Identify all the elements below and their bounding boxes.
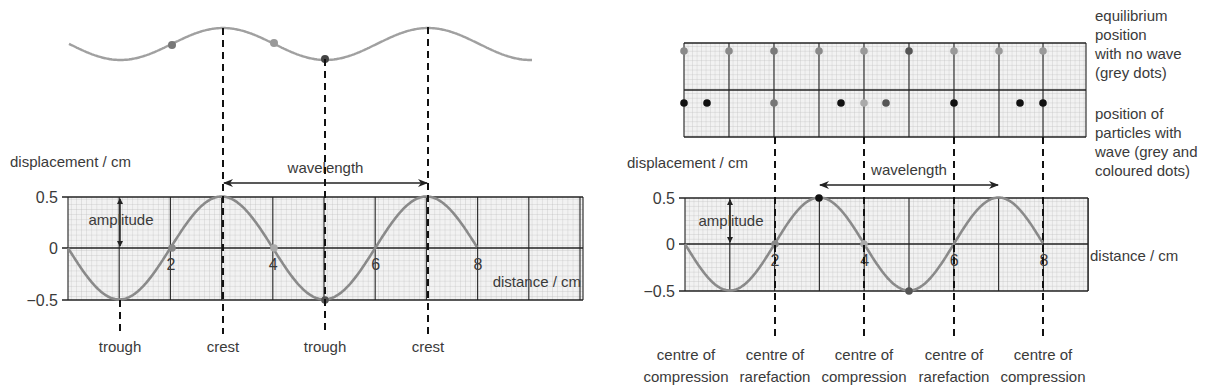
- centre-label-line2: rarefaction: [740, 368, 811, 385]
- y-tick-label: 0: [49, 240, 58, 257]
- displaced-particle-dot: [770, 99, 778, 107]
- wavelength-label: wavelength: [870, 161, 947, 178]
- x-tick-label: 4: [269, 256, 278, 273]
- marker-label-crest: crest: [207, 338, 240, 355]
- equilibrium-dot: [815, 47, 823, 55]
- note-line: (grey dots): [1095, 63, 1182, 82]
- note-line: with no wave: [1095, 44, 1182, 63]
- equilibrium-dot: [770, 47, 778, 55]
- note-line: equilibrium: [1095, 6, 1182, 25]
- centre-label-line1: centre of: [746, 346, 805, 363]
- y-axis-label: displacement / cm: [627, 154, 748, 171]
- longitudinal-wave-panel: 0.50−0.52468amplitudedisplacement / cmwa…: [627, 43, 1178, 385]
- string-particle-dot: [168, 41, 176, 49]
- x-axis-label: distance / cm: [493, 273, 581, 290]
- string-wave: [69, 28, 532, 60]
- x-tick-label: 8: [474, 256, 483, 273]
- string-particle-dot: [270, 39, 278, 47]
- equilibrium-note: equilibrium position with no wave (grey …: [1095, 6, 1182, 82]
- y-tick-label: 0.5: [36, 189, 58, 206]
- centre-label-line2: compression: [643, 368, 728, 385]
- equilibrium-dot: [995, 47, 1003, 55]
- displaced-particle-dot: [680, 99, 688, 107]
- zero-crossing-dot: [270, 244, 278, 252]
- note-line: coloured dots): [1095, 161, 1198, 180]
- equilibrium-dot: [725, 47, 733, 55]
- equilibrium-dot: [950, 47, 958, 55]
- wave-diagram: 0.50−0.52468amplitudedisplacement / cmwa…: [0, 0, 1222, 388]
- displaced-particle-dot: [703, 99, 711, 107]
- y-tick-label: −0.5: [643, 283, 675, 300]
- marker-label-trough: trough: [99, 338, 142, 355]
- displaced-particle-dot: [1039, 99, 1047, 107]
- displaced-particle-dot: [1016, 99, 1024, 107]
- centre-label-line1: centre of: [657, 346, 716, 363]
- note-line: position of: [1095, 104, 1198, 123]
- wave-diagram-canvas: 0.50−0.52468amplitudedisplacement / cmwa…: [0, 0, 1222, 388]
- wave-point-dot: [905, 287, 913, 295]
- y-axis-label: displacement / cm: [10, 153, 131, 170]
- wave-point-dot: [815, 194, 823, 202]
- amplitude-label: amplitude: [88, 211, 153, 228]
- marker-label-trough: trough: [304, 338, 347, 355]
- equilibrium-dot: [905, 47, 913, 55]
- x-axis-label: distance / cm: [1090, 247, 1178, 264]
- x-tick-label: 2: [166, 256, 175, 273]
- displaced-particle-dot: [950, 99, 958, 107]
- centre-label-line1: centre of: [925, 346, 984, 363]
- x-tick-label: 6: [371, 256, 380, 273]
- y-tick-label: 0.5: [653, 190, 675, 207]
- y-tick-label: 0: [666, 236, 675, 253]
- displaced-particle-dot: [860, 99, 868, 107]
- centre-label-line1: centre of: [1014, 346, 1073, 363]
- centre-label-line2: compression: [821, 368, 906, 385]
- marker-label-crest: crest: [412, 338, 445, 355]
- displaced-particle-dot: [837, 99, 845, 107]
- equilibrium-dot: [860, 47, 868, 55]
- centre-label-line2: compression: [1000, 368, 1085, 385]
- equilibrium-dot: [1039, 47, 1047, 55]
- zero-crossing-dot: [168, 244, 176, 252]
- amplitude-label: amplitude: [698, 212, 763, 229]
- centre-label-line2: rarefaction: [919, 368, 990, 385]
- equilibrium-dot: [680, 47, 688, 55]
- note-line: wave (grey and: [1095, 142, 1198, 161]
- note-line: position: [1095, 25, 1182, 44]
- displaced-particle-dot: [882, 99, 890, 107]
- with-wave-note: position of particles with wave (grey an…: [1095, 104, 1198, 180]
- centre-label-line1: centre of: [835, 346, 894, 363]
- transverse-wave-panel: 0.50−0.52468amplitudedisplacement / cmwa…: [10, 27, 583, 355]
- y-tick-label: −0.5: [26, 292, 58, 309]
- note-line: particles with: [1095, 123, 1198, 142]
